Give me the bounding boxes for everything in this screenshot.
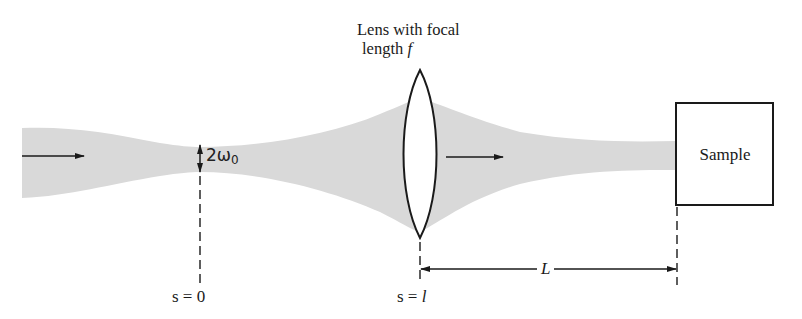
lens-label-line1: Lens with focal xyxy=(357,20,460,39)
laser-beam-after-lens xyxy=(420,98,676,232)
lens-position-label: s = l xyxy=(397,288,426,305)
beam-focusing-diagram: Lens with focal length f 2ω0 Sample s = … xyxy=(0,0,802,319)
distance-label: L xyxy=(537,260,554,277)
waist-position-label: s = 0 xyxy=(172,288,205,305)
sample-label: Sample xyxy=(676,146,774,163)
lens-label: Lens with focal length f xyxy=(357,20,460,58)
lens-label-line2: length f xyxy=(357,39,460,58)
beam-waist-label: 2ω0 xyxy=(206,147,239,166)
focal-length-symbol: f xyxy=(407,39,412,58)
